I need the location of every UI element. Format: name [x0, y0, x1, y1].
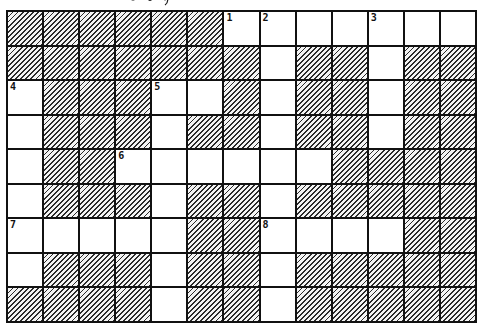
blocked-square — [333, 47, 367, 80]
blocked-square — [8, 12, 42, 45]
answer-square[interactable] — [261, 81, 295, 114]
answer-square[interactable] — [224, 150, 258, 183]
blocked-square — [224, 288, 258, 321]
blocked-square — [80, 254, 114, 287]
blocked-square — [441, 116, 475, 149]
answer-square[interactable] — [80, 219, 114, 252]
answer-square[interactable] — [152, 185, 186, 218]
blocked-square — [44, 254, 78, 287]
blocked-square — [333, 81, 367, 114]
blocked-square — [80, 116, 114, 149]
clue-number: 6 — [118, 150, 124, 161]
answer-square[interactable] — [333, 12, 367, 45]
blocked-square — [369, 254, 403, 287]
blocked-square — [333, 254, 367, 287]
answer-square[interactable] — [369, 47, 403, 80]
blocked-square — [152, 12, 186, 45]
answer-square[interactable] — [297, 150, 331, 183]
answer-square[interactable] — [152, 150, 186, 183]
answer-square[interactable]: 1 — [224, 12, 258, 45]
blocked-square — [116, 254, 150, 287]
answer-square[interactable]: 8 — [261, 219, 295, 252]
answer-square[interactable] — [152, 219, 186, 252]
answer-square[interactable] — [44, 219, 78, 252]
clue-number: 1 — [226, 12, 232, 23]
answer-square[interactable] — [188, 150, 222, 183]
blocked-square — [8, 47, 42, 80]
blocked-square — [405, 219, 439, 252]
crossword-grid: 12345678 — [6, 10, 477, 323]
blocked-square — [80, 150, 114, 183]
answer-square[interactable] — [369, 219, 403, 252]
answer-square[interactable] — [261, 288, 295, 321]
answer-square[interactable] — [152, 254, 186, 287]
blocked-square — [116, 116, 150, 149]
blocked-square — [297, 254, 331, 287]
blocked-square — [44, 81, 78, 114]
answer-square[interactable] — [297, 12, 331, 45]
blocked-square — [405, 81, 439, 114]
blocked-square — [333, 185, 367, 218]
blocked-square — [441, 288, 475, 321]
blocked-square — [297, 81, 331, 114]
answer-square[interactable] — [261, 116, 295, 149]
blocked-square — [80, 185, 114, 218]
answer-square[interactable] — [152, 116, 186, 149]
clue-number: 4 — [10, 81, 16, 92]
blocked-square — [80, 81, 114, 114]
blocked-square — [441, 219, 475, 252]
answer-square[interactable] — [297, 219, 331, 252]
answer-square[interactable] — [261, 47, 295, 80]
answer-square[interactable] — [261, 185, 295, 218]
answer-square[interactable] — [8, 116, 42, 149]
blocked-square — [188, 12, 222, 45]
blocked-square — [44, 288, 78, 321]
answer-square[interactable] — [261, 254, 295, 287]
answer-square[interactable] — [8, 185, 42, 218]
answer-square[interactable] — [333, 219, 367, 252]
blocked-square — [116, 81, 150, 114]
answer-square[interactable]: 4 — [8, 81, 42, 114]
answer-square[interactable]: 2 — [261, 12, 295, 45]
answer-square[interactable]: 6 — [116, 150, 150, 183]
blocked-square — [441, 81, 475, 114]
blocked-square — [405, 47, 439, 80]
answer-square[interactable]: 7 — [8, 219, 42, 252]
blocked-square — [441, 185, 475, 218]
blocked-square — [188, 116, 222, 149]
clue-number: 8 — [263, 219, 269, 230]
answer-square[interactable] — [441, 12, 475, 45]
blocked-square — [44, 116, 78, 149]
blocked-square — [44, 12, 78, 45]
blocked-square — [224, 116, 258, 149]
answer-square[interactable] — [152, 288, 186, 321]
clue-number: 5 — [154, 81, 160, 92]
clue-number: 7 — [10, 219, 16, 230]
answer-square[interactable] — [116, 219, 150, 252]
blocked-square — [297, 185, 331, 218]
answer-square[interactable]: 3 — [369, 12, 403, 45]
answer-square[interactable]: 5 — [152, 81, 186, 114]
clue-number: 2 — [263, 12, 269, 23]
answer-square[interactable] — [369, 81, 403, 114]
handwritten-scribble — [100, 0, 190, 6]
blocked-square — [44, 150, 78, 183]
blocked-square — [405, 116, 439, 149]
answer-square[interactable] — [188, 81, 222, 114]
blocked-square — [405, 288, 439, 321]
blocked-square — [152, 47, 186, 80]
blocked-square — [116, 185, 150, 218]
blocked-square — [80, 47, 114, 80]
answer-square[interactable] — [405, 12, 439, 45]
blocked-square — [116, 288, 150, 321]
answer-square[interactable] — [8, 150, 42, 183]
blocked-square — [369, 185, 403, 218]
blocked-square — [333, 150, 367, 183]
answer-square[interactable] — [8, 254, 42, 287]
blocked-square — [188, 288, 222, 321]
blocked-square — [224, 254, 258, 287]
blocked-square — [188, 219, 222, 252]
blocked-square — [80, 12, 114, 45]
answer-square[interactable] — [369, 116, 403, 149]
answer-square[interactable] — [261, 150, 295, 183]
